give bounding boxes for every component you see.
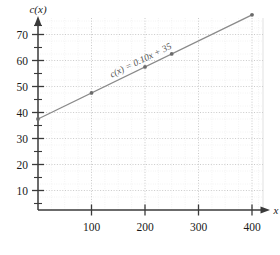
x-tick-label: 400 bbox=[243, 221, 261, 233]
y-tick-label: 30 bbox=[17, 133, 29, 145]
y-tick-label: 60 bbox=[17, 55, 29, 67]
line-chart: 70 60 50 40 30 20 10 100 200 300 400 c(x… bbox=[0, 0, 280, 255]
data-point bbox=[90, 91, 94, 95]
x-tick-label: 200 bbox=[136, 221, 154, 233]
x-tick-label: 100 bbox=[83, 221, 101, 233]
data-point bbox=[170, 52, 174, 56]
plot-background bbox=[38, 18, 263, 210]
x-tick-label: 300 bbox=[190, 221, 208, 233]
y-tick-label: 40 bbox=[17, 107, 29, 119]
x-axis-label: x bbox=[273, 204, 279, 216]
y-tick-label: 20 bbox=[17, 159, 29, 171]
x-tick-labels: 100 200 300 400 bbox=[83, 221, 261, 233]
y-tick-label: 50 bbox=[17, 81, 29, 93]
y-tick-label: 10 bbox=[17, 185, 29, 197]
data-point bbox=[143, 65, 147, 69]
y-axis-label: c(x) bbox=[29, 3, 46, 16]
y-tick-label: 70 bbox=[17, 29, 29, 41]
data-point bbox=[36, 117, 40, 121]
chart-container: 70 60 50 40 30 20 10 100 200 300 400 c(x… bbox=[0, 0, 280, 255]
data-point bbox=[250, 13, 254, 17]
y-tick-labels: 70 60 50 40 30 20 10 bbox=[17, 29, 29, 197]
